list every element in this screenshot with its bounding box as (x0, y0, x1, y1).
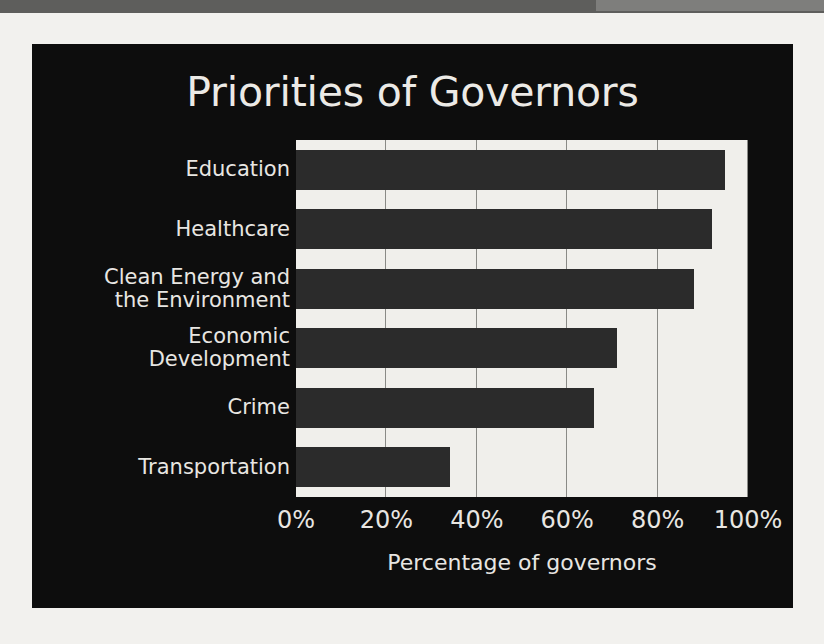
bar-row (296, 209, 748, 249)
x-tick-label: 40% (450, 506, 503, 534)
category-label: Clean Energy and the Environment (42, 266, 290, 312)
x-tick-label: 100% (714, 506, 783, 534)
scanned-page-background: Priorities of Governors EducationHealthc… (0, 0, 824, 644)
category-label: Economic Development (42, 325, 290, 371)
category-label: Crime (42, 396, 290, 419)
x-tick-label: 0% (277, 506, 315, 534)
bars-layer (296, 140, 748, 497)
x-tick-label: 80% (631, 506, 684, 534)
bar (296, 328, 617, 368)
bar (296, 269, 694, 309)
plot-area (296, 140, 748, 497)
bar-row (296, 269, 748, 309)
bar-row (296, 328, 748, 368)
bar (296, 150, 725, 190)
bar (296, 388, 594, 428)
category-label: Healthcare (42, 218, 290, 241)
category-label: Education (42, 158, 290, 181)
x-axis-title: Percentage of governors (296, 550, 748, 575)
bar-row (296, 150, 748, 190)
x-tick-label: 20% (360, 506, 413, 534)
x-axis-tick-labels: 0%20%40%60%80%100% (296, 506, 748, 540)
chart-title: Priorities of Governors (32, 68, 793, 116)
bar-row (296, 388, 748, 428)
category-axis-labels: EducationHealthcareClean Energy and the … (42, 140, 290, 497)
bar (296, 447, 450, 487)
category-label: Transportation (42, 456, 290, 479)
bar-row (296, 447, 748, 487)
x-tick-label: 60% (541, 506, 594, 534)
bar (296, 209, 712, 249)
page-top-edge-strip-right (596, 0, 824, 11)
chart-panel: Priorities of Governors EducationHealthc… (32, 44, 793, 608)
